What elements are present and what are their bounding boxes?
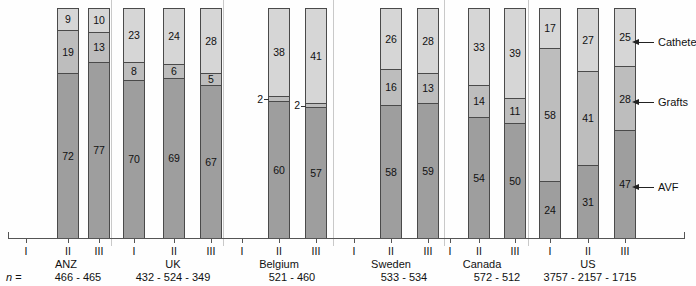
segment-catheters: 27 (578, 9, 598, 71)
group-separator (333, 0, 334, 246)
xtick-canada-ii: II (459, 245, 499, 257)
segment-avf: 50 (505, 123, 525, 238)
axis-tick (428, 238, 429, 243)
segment-avf: 70 (124, 80, 144, 238)
segment-grafts: 58 (540, 48, 560, 181)
xtick-belgium-ii: II (259, 245, 299, 257)
axis-tick (588, 238, 589, 243)
segment-catheters: 41 (306, 9, 326, 103)
bar-canada-ii[interactable]: 33 14 54 (468, 8, 490, 238)
segment-catheters: 23 (124, 9, 144, 62)
axis-tick (26, 238, 27, 243)
segment-grafts: 11 (505, 98, 525, 123)
group-separator (223, 0, 224, 246)
segment-grafts: 8 (124, 62, 144, 80)
segment-avf: 59 (418, 103, 438, 238)
bar-canada-iii[interactable]: 39 11 50 (504, 8, 526, 238)
legend-item-grafts: Grafts (632, 96, 688, 108)
segment-avf: 24 (540, 181, 560, 238)
segment-grafts: 14 (469, 85, 489, 117)
bar-sweden-iii[interactable]: 28 13 59 (417, 8, 439, 238)
bar-belgium-iii[interactable]: 41 2 57 (305, 8, 327, 238)
axis-tick (279, 238, 280, 243)
xtick-sweden-ii: II (371, 245, 411, 257)
segment-avf: 60 (269, 101, 289, 238)
legend-label-avf: AVF (658, 181, 679, 193)
bar-anz-ii[interactable]: 9 19 72 (57, 8, 79, 238)
axis-tick (391, 238, 392, 243)
legend-item-catheters: Catheters (632, 36, 696, 48)
segment-catheters: 33 (469, 9, 489, 85)
bar-uk-ii[interactable]: 24 6 69 (163, 8, 185, 238)
segment-grafts: 16 (381, 69, 401, 106)
xtick-uk-ii: II (154, 245, 194, 257)
segment-avf: 67 (201, 85, 221, 238)
xtick-us-ii: II (568, 245, 608, 257)
plot-area: 9 19 72 10 13 77 23 8 70 24 6 69 28 5 67 (0, 0, 696, 238)
xtick-anz-i: I (6, 245, 46, 257)
xtick-us-i: I (530, 245, 570, 257)
arrow-left-icon (632, 184, 654, 191)
axis-tick (316, 238, 317, 243)
axis-tick (450, 238, 451, 243)
group-n-us: 3757 - 2157 - 1715 (505, 271, 675, 283)
group-label-us: US (518, 258, 658, 270)
xtick-canada-iii: III (495, 245, 535, 257)
segment-avf: 57 (306, 107, 326, 238)
bar-sweden-ii[interactable]: 26 16 58 (380, 8, 402, 238)
segment-grafts: 5 (201, 73, 221, 84)
xtick-sweden-i: I (334, 245, 374, 257)
axis-tick (625, 238, 626, 243)
axis-tick (479, 238, 480, 243)
bar-belgium-ii[interactable]: 38 2 60 (268, 8, 290, 238)
segment-grafts: 13 (89, 32, 109, 62)
x-axis-line (8, 238, 684, 239)
segment-grafts: 6 (164, 64, 184, 78)
arrow-left-icon (632, 39, 654, 46)
legend-label-grafts: Grafts (658, 96, 688, 108)
segment-catheters: 28 (201, 9, 221, 73)
segment-avf: 58 (381, 105, 401, 238)
legend-label-catheters: Catheters (658, 36, 696, 48)
segment-grafts: 41 (578, 71, 598, 165)
segment-avf: 31 (578, 165, 598, 238)
segment-catheters: 17 (540, 9, 560, 48)
axis-tick (174, 238, 175, 243)
xtick-anz-iii: III (79, 245, 119, 257)
segment-avf: 69 (164, 78, 184, 238)
axis-cap-right (684, 232, 685, 239)
segment-catheters: 39 (505, 9, 525, 98)
group-separator (111, 0, 112, 246)
stacked-bar-chart: 9 19 72 10 13 77 23 8 70 24 6 69 28 5 67 (0, 0, 696, 286)
bar-us-ii[interactable]: 27 41 31 (577, 8, 599, 238)
axis-tick (134, 238, 135, 243)
segment-avf: 77 (89, 62, 109, 238)
group-separator (528, 0, 529, 246)
segment-grafts: 13 (418, 73, 438, 103)
segment-avf: 72 (58, 73, 78, 238)
bar-uk-iii[interactable]: 28 5 67 (200, 8, 222, 238)
xtick-belgium-iii: III (296, 245, 336, 257)
axis-tick (211, 238, 212, 243)
xtick-uk-i: I (114, 245, 154, 257)
group-separator (444, 0, 445, 246)
axis-tick (68, 238, 69, 243)
bar-uk-i[interactable]: 23 8 70 (123, 8, 145, 238)
arrow-left-icon (632, 99, 654, 106)
bar-anz-iii[interactable]: 10 13 77 (88, 8, 110, 238)
axis-tick (515, 238, 516, 243)
bar-us-i[interactable]: 17 58 24 (539, 8, 561, 238)
segment-catheters: 38 (269, 9, 289, 96)
segment-catheters: 24 (164, 9, 184, 64)
axis-tick (550, 238, 551, 243)
segment-catheters: 10 (89, 9, 109, 32)
segment-grafts: 19 (58, 30, 78, 74)
legend-item-avf: AVF (632, 181, 679, 193)
axis-tick (99, 238, 100, 243)
segment-avf: 54 (469, 117, 489, 238)
segment-catheters: 28 (418, 9, 438, 73)
axis-tick (242, 238, 243, 243)
segment-catheters: 9 (58, 9, 78, 30)
axis-tick (354, 238, 355, 243)
axis-cap-left (8, 232, 9, 239)
